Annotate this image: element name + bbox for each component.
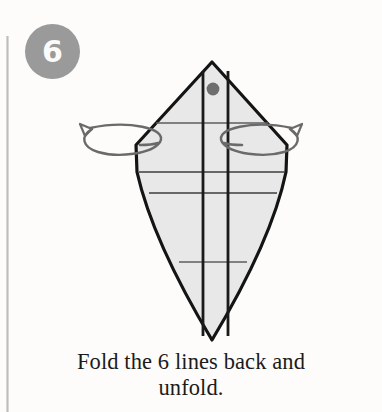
step-caption: Fold the 6 lines back and unfold.: [0, 349, 382, 401]
origami-instruction-page: 6 Fold the 6 lines back and: [0, 0, 382, 412]
corner-marker-dot: [207, 83, 220, 96]
origami-diagram: [0, 0, 382, 350]
paper-shape: [136, 62, 287, 340]
caption-line-2: unfold.: [0, 375, 382, 401]
caption-line-1: Fold the 6 lines back and: [0, 349, 382, 375]
